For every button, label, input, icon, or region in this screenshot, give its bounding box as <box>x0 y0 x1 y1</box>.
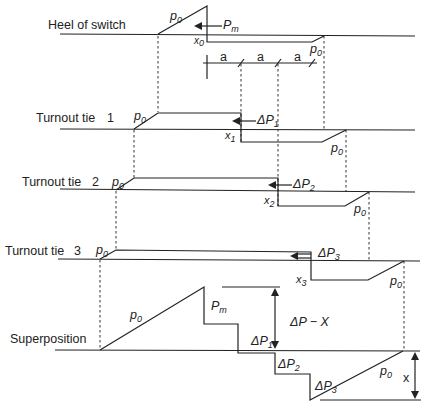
tie3-number: 3 <box>74 244 81 258</box>
dp1-label: ΔP1 <box>256 113 279 129</box>
p0-label: p0 <box>353 202 366 218</box>
p0-label: p0 <box>111 175 124 191</box>
p0-label: p0 <box>129 308 142 324</box>
row-label-heel: Heel of switch <box>48 18 126 32</box>
x2-label: x2 <box>263 194 275 209</box>
spacing-a-label: a <box>294 50 301 64</box>
arrow-head-icon <box>268 181 276 189</box>
track-force-diagram: Heel of switch Turnout tie 1 Turnout tie… <box>0 0 427 411</box>
arrow-down-icon <box>411 391 419 399</box>
arrow-up-icon <box>411 352 419 360</box>
dp1-label: ΔP1 <box>250 334 273 350</box>
dp-x-label: ΔP − X <box>289 315 330 329</box>
p0-label: p0 <box>330 141 343 157</box>
tie3-force-profile <box>100 250 404 280</box>
tie2-baseline <box>60 189 415 192</box>
heel-baseline <box>60 34 415 36</box>
dp2-label: ΔP2 <box>292 177 315 193</box>
p0-label: p0 <box>309 42 322 58</box>
heel-force-profile <box>158 6 324 42</box>
x0-label: x0 <box>193 35 204 48</box>
row-label-tie1: Turnout tie <box>36 111 95 125</box>
x1-label: x1 <box>224 129 236 144</box>
tie2-force-profile <box>116 178 369 206</box>
tie1-baseline <box>60 129 415 130</box>
pm-label: Pm <box>211 299 227 315</box>
arrow-head-icon <box>232 117 240 125</box>
row-label-tie2: Turnout tie <box>22 175 81 189</box>
dp3-label: ΔP3 <box>317 246 340 262</box>
pm-label: Pm <box>223 18 239 34</box>
p0-label: p0 <box>389 274 402 290</box>
p0-label: p0 <box>133 109 146 125</box>
row-label-superposition: Superposition <box>10 332 86 346</box>
dp2-label: ΔP2 <box>277 357 300 373</box>
tie3-baseline <box>58 259 420 261</box>
spacing-a-label: a <box>220 50 227 64</box>
tie1-number: 1 <box>107 111 114 125</box>
arrow-head-icon <box>290 252 298 260</box>
row-label-tie3: Turnout tie <box>5 244 64 258</box>
x-dimension-label: x <box>403 371 410 385</box>
arrow-head-icon <box>194 22 202 30</box>
p0-label: p0 <box>169 9 182 25</box>
spacing-a-label: a <box>257 50 264 64</box>
p0-label: p0 <box>95 243 108 259</box>
p0-label: p0 <box>379 364 392 380</box>
arrow-up-icon <box>271 288 279 296</box>
tie2-number: 2 <box>92 175 99 189</box>
dp3-label: ΔP3 <box>314 379 337 395</box>
x3-label: x3 <box>295 273 307 288</box>
